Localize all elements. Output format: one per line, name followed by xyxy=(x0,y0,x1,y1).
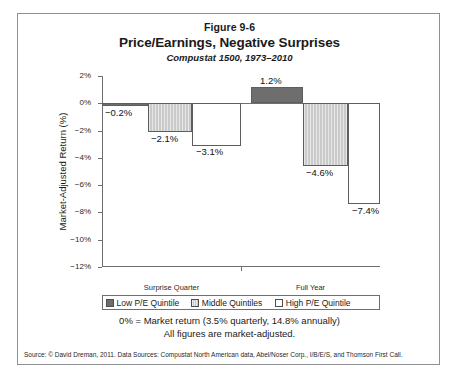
legend-label-low-pe-quintile: Low P/E Quintile xyxy=(117,298,180,308)
y-tick-label-0: 0% xyxy=(79,99,91,107)
figure-notes: 0% = Market return (3.5% quarterly, 14.8… xyxy=(18,314,441,340)
figure-number: Figure 9-6 xyxy=(18,20,441,34)
bar-low-pe-surprise-quarter xyxy=(102,103,148,106)
y-tick-label-minus6: −6% xyxy=(75,181,91,189)
legend-swatch-high-pe-quintile xyxy=(275,299,283,307)
y-tick-minus6: −6% xyxy=(98,185,102,186)
legend-label-high-pe-quintile: High P/E Quintile xyxy=(286,298,351,308)
y-tick-label-minus10: −10% xyxy=(70,236,91,244)
bar-low-pe-full-year xyxy=(251,87,303,103)
y-tick-minus8: −8% xyxy=(98,212,102,213)
y-tick-label-minus4: −4% xyxy=(75,154,91,162)
x-axis-mid-tick xyxy=(241,267,242,271)
x-category-label-full-year: Full Year xyxy=(241,283,380,293)
legend-item-low-pe-quintile: Low P/E Quintile xyxy=(106,298,179,308)
y-tick-label-minus8: −8% xyxy=(75,208,91,216)
y-tick-minus10: −10% xyxy=(98,240,102,241)
y-tick-minus12: −12% xyxy=(98,267,102,268)
y-tick-2: 2% xyxy=(98,76,102,77)
bar-middle-surprise-quarter xyxy=(148,103,192,132)
title-block: Figure 9-6 Price/Earnings, Negative Surp… xyxy=(18,20,441,65)
y-tick-label-2: 2% xyxy=(79,72,91,80)
note-market-return: 0% = Market return (3.5% quarterly, 14.8… xyxy=(18,314,441,327)
y-tick-minus4: −4% xyxy=(98,158,102,159)
y-tick-label-minus2: −2% xyxy=(75,127,91,135)
y-axis-title: Market-Adjusted Return (%) xyxy=(56,76,70,267)
y-tick-minus2: −2% xyxy=(98,131,102,132)
legend-item-middle-quintiles: Middle Quintiles xyxy=(191,298,262,308)
plot-area: 2% 0% −2% −4% −6% −8% −10% −12% −0.2% −2… xyxy=(102,76,380,267)
bar-label-middle-surprise-quarter: −2.1% xyxy=(151,133,178,144)
note-market-adjusted: All figures are market-adjusted. xyxy=(18,327,441,340)
legend-swatch-middle-quintiles xyxy=(191,299,199,307)
bar-high-pe-full-year xyxy=(348,103,380,204)
bar-label-high-pe-surprise-quarter: −3.1% xyxy=(196,146,223,157)
bar-high-pe-surprise-quarter xyxy=(192,103,241,145)
bar-label-high-pe-full-year: −7.4% xyxy=(352,205,379,216)
legend-label-middle-quintiles: Middle Quintiles xyxy=(202,298,262,308)
figure-subtitle: Compustat 1500, 1973–2010 xyxy=(18,51,441,65)
figure-title: Price/Earnings, Negative Surprises xyxy=(18,34,441,51)
legend-swatch-low-pe-quintile xyxy=(106,299,114,307)
y-tick-label-minus12: −12% xyxy=(70,263,91,271)
x-category-label-surprise-quarter: Surprise Quarter xyxy=(102,283,241,293)
legend-item-high-pe-quintile: High P/E Quintile xyxy=(275,298,350,308)
chart-legend: Low P/E Quintile Middle Quintiles High P… xyxy=(102,295,380,310)
bar-label-low-pe-full-year: 1.2% xyxy=(260,75,282,86)
source-note: Source: © David Dreman, 2011. Data Sourc… xyxy=(24,350,436,359)
figure-frame: Figure 9-6 Price/Earnings, Negative Surp… xyxy=(17,13,440,365)
bar-label-low-pe-surprise-quarter: −0.2% xyxy=(105,107,132,118)
bar-middle-full-year xyxy=(303,103,348,166)
bar-label-middle-full-year: −4.6% xyxy=(306,167,333,178)
